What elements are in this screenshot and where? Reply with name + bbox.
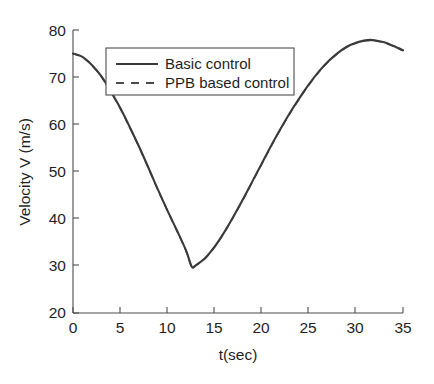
- legend-label-ppb-based-control: PPB based control: [165, 74, 289, 91]
- x-tick-label-25: 25: [299, 319, 316, 336]
- chart-figure: 80 70 60 50 40 30 20 0 5 10 15 20 25: [0, 0, 434, 384]
- y-tick-label-70: 70: [49, 69, 67, 86]
- chart-legend: Basic control PPB based control: [106, 48, 294, 95]
- y-tick-label-30: 30: [49, 257, 67, 274]
- y-tick-label-80: 80: [49, 22, 67, 39]
- legend-label-basic-control: Basic control: [165, 55, 251, 72]
- x-tick-label-20: 20: [252, 319, 270, 336]
- x-tick-label-30: 30: [346, 319, 364, 336]
- y-tick-label-20: 20: [49, 304, 67, 321]
- y-tick-label-40: 40: [49, 210, 67, 227]
- x-tick-label-35: 35: [394, 319, 411, 336]
- x-tick-label-5: 5: [116, 319, 125, 336]
- y-tick-label-50: 50: [49, 163, 67, 180]
- x-axis-title: t(sec): [219, 346, 258, 363]
- x-tick-label-10: 10: [158, 319, 176, 336]
- x-tick-label-15: 15: [205, 319, 222, 336]
- y-axis-title: Velocity V (m/s): [16, 118, 33, 226]
- x-tick-label-0: 0: [69, 319, 78, 336]
- y-tick-label-60: 60: [49, 116, 67, 133]
- velocity-line-chart: 80 70 60 50 40 30 20 0 5 10 15 20 25: [0, 0, 434, 384]
